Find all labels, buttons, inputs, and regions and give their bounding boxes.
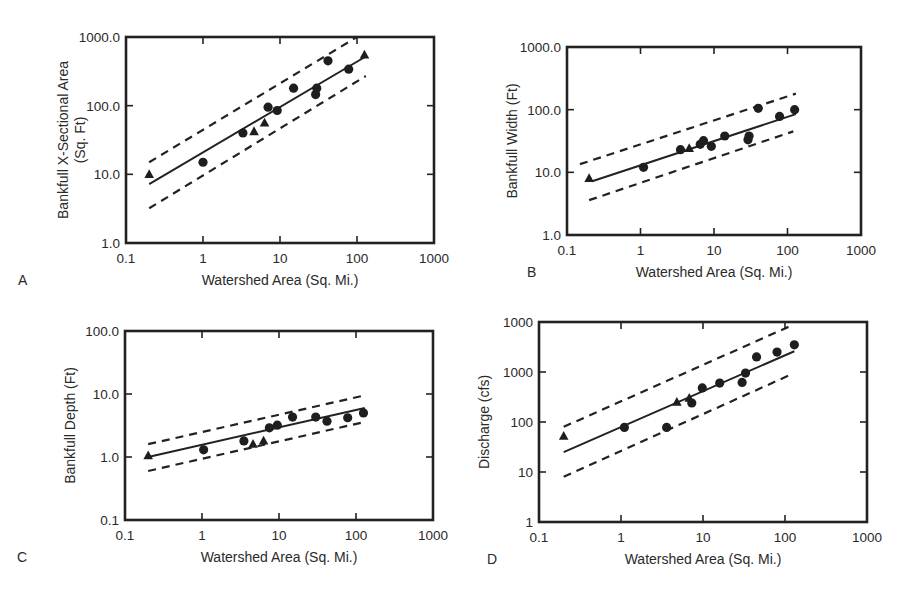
data-point-circle [312,84,321,93]
y-tick-label: 10.0 [94,167,120,182]
x-tick-label: 1 [199,251,207,266]
data-point-circle [263,103,272,112]
panel-letter: A [18,272,28,288]
data-point-circle [343,413,352,422]
data-point-circle [239,436,248,445]
panel-letter: D [487,551,497,567]
x-tick-label: 0.1 [558,243,577,258]
data-point-circle [288,412,297,421]
upper-bound-line [148,395,365,444]
data-point-circle [720,131,729,140]
data-point-circle [311,412,320,421]
data-point-circle [273,421,282,430]
data-point-circle [289,84,298,93]
y-axis-title: Bankfull Depth (Ft) [62,367,78,484]
data-point-circle [344,65,353,74]
data-point-circle [662,423,671,432]
x-tick-label: 0.1 [530,530,549,545]
x-tick-label: 1 [637,243,645,258]
data-point-triangle [584,173,594,182]
lower-bound-line [589,131,793,200]
lower-bound-line [564,374,792,477]
data-point-circle [198,158,207,167]
y-tick-label: 1000.0 [520,40,561,55]
data-point-triangle [684,393,694,402]
data-point-circle [699,136,708,145]
data-point-circle [775,112,784,121]
y-tick-label: 10 [518,465,533,480]
regression-line [592,114,796,181]
data-point-circle [359,408,368,417]
y-tick-label: 10.0 [535,165,561,180]
y-tick-label: 100.0 [86,99,120,114]
x-axis-title: Watershed Area (Sq. Mi.) [625,551,782,567]
upper-bound-line [564,326,792,427]
data-point-circle [790,105,799,114]
data-point-triangle [249,126,259,135]
y-tick-label: 1 [525,515,533,530]
y-tick-label: 1000 [503,315,533,330]
y-axis-title: Bankfull Width (Ft) [504,83,520,198]
data-point-circle [322,417,331,426]
y-tick-label: 10.0 [93,387,119,402]
chart-panel-c: 0.111010010000.11.010.0100.0Watershed Ar… [17,324,448,565]
y-tick-label: 1.0 [542,228,561,243]
data-point-triangle [143,450,153,459]
data-point-circle [639,163,648,172]
y-tick-label: 100.0 [527,103,561,118]
x-tick-label: 1000 [852,530,882,545]
data-point-circle [744,131,753,140]
data-point-circle [238,128,247,137]
chart-panel-b: 0.111010010001.010.0100.01000.0Watershed… [504,40,876,280]
x-tick-label: 10 [271,528,286,543]
x-tick-label: 1000 [846,243,876,258]
data-point-triangle [144,169,154,178]
y-axis-title: Discharge (cfs) [476,375,492,469]
x-tick-label: 100 [345,528,368,543]
data-point-circle [199,445,208,454]
upper-bound-line [580,94,796,164]
y-tick-label: 1000.0 [79,30,120,45]
regression-line [148,408,365,457]
data-point-circle [715,378,724,387]
data-point-triangle [559,431,569,440]
data-point-triangle [259,436,269,445]
data-point-circle [273,106,282,115]
x-tick-label: 100 [346,251,369,266]
y-axis-title: (Sq. Ft) [72,117,88,164]
data-point-circle [754,104,763,113]
x-tick-label: 10 [706,243,721,258]
data-point-circle [265,423,274,432]
x-axis-title: Watershed Area (Sq. Mi.) [636,264,793,280]
x-tick-label: 10 [272,251,287,266]
y-tick-label: 1000 [503,365,533,380]
y-tick-label: 100.0 [85,324,119,339]
x-tick-label: 100 [776,243,799,258]
y-tick-label: 1.0 [101,236,120,251]
upper-bound-line [149,37,357,162]
x-tick-label: 1000 [418,528,448,543]
x-tick-label: 0.1 [117,251,136,266]
data-point-circle [738,378,747,387]
data-point-circle [741,369,750,378]
y-axis-title: Bankfull X-Sectional Area [55,61,71,219]
x-tick-label: 0.1 [116,528,135,543]
data-point-triangle [248,439,258,448]
data-point-triangle [360,50,370,59]
data-point-circle [323,56,332,65]
data-point-circle [790,340,799,349]
data-point-circle [707,142,716,151]
panel-letter: C [17,549,27,565]
data-point-circle [676,145,685,154]
chart-panel-d: 0.1110100100011010010001000Watershed Are… [476,315,882,567]
plot-frame [539,322,867,522]
chart-panel-a: 0.111010010001.010.0100.01000.0Watershed… [18,30,449,288]
data-point-circle [620,423,629,432]
data-point-circle [698,383,707,392]
x-axis-title: Watershed Area (Sq. Mi.) [202,272,359,288]
y-tick-label: 0.1 [100,513,119,528]
x-tick-label: 1 [198,528,206,543]
x-tick-label: 100 [774,530,797,545]
x-axis-title: Watershed Area (Sq. Mi.) [201,549,358,565]
x-tick-label: 1000 [419,251,449,266]
